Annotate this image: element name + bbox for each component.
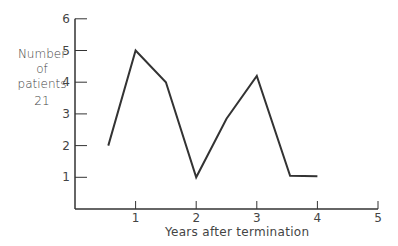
y-tick-label: 3 [62, 107, 70, 121]
data-line [108, 51, 317, 178]
x-tick-label: 5 [374, 211, 382, 225]
x-tick-label: 2 [192, 211, 200, 225]
y-tick-label: 1 [62, 170, 70, 184]
line-chart: 12345612345 [0, 0, 398, 246]
ticks: 12345612345 [62, 12, 381, 225]
x-tick-label: 4 [314, 211, 322, 225]
y-tick-label: 6 [62, 12, 70, 26]
y-tick-label: 4 [62, 75, 70, 89]
x-tick-label: 3 [253, 211, 261, 225]
x-tick-label: 1 [132, 211, 140, 225]
y-tick-label: 5 [62, 44, 70, 58]
y-tick-label: 2 [62, 139, 70, 153]
axes [75, 19, 378, 209]
